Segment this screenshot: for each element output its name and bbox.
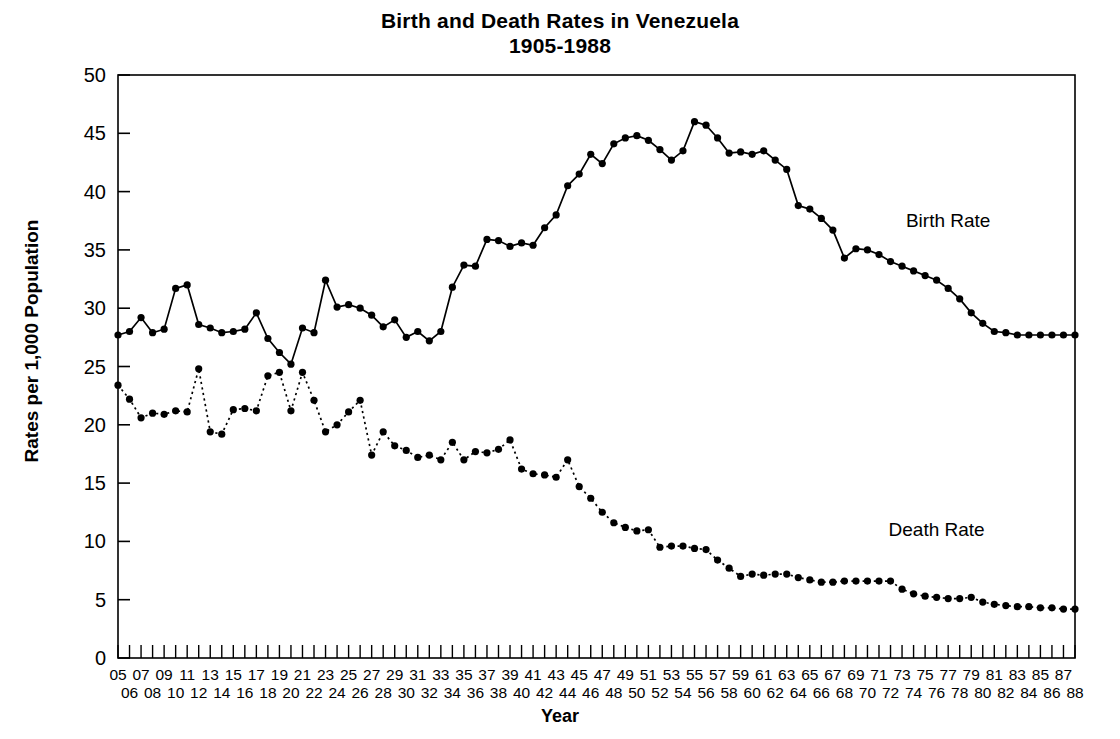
x-tick-label: 51 — [640, 666, 657, 683]
x-tick-label: 12 — [190, 684, 207, 701]
series-birth-rate — [114, 118, 1078, 368]
data-point — [795, 202, 802, 209]
series-line — [118, 369, 1075, 609]
data-point — [483, 449, 490, 456]
x-tick-label: 40 — [513, 684, 531, 701]
x-tick-label: 62 — [767, 684, 784, 701]
x-tick-label: 29 — [386, 666, 403, 683]
data-point — [114, 382, 121, 389]
x-tick-label: 19 — [271, 666, 288, 683]
x-tick-label: 44 — [559, 684, 577, 701]
data-point — [529, 470, 536, 477]
data-point — [529, 242, 536, 249]
data-point — [702, 122, 709, 129]
data-point — [380, 428, 387, 435]
data-point — [956, 295, 963, 302]
data-point — [276, 349, 283, 356]
data-point — [460, 456, 467, 463]
data-point — [322, 277, 329, 284]
x-tick-label: 86 — [1043, 684, 1060, 701]
x-tick-label: 59 — [732, 666, 749, 683]
data-point — [184, 408, 191, 415]
data-point — [656, 544, 663, 551]
data-point — [506, 243, 513, 250]
x-tick-label: 54 — [674, 684, 692, 701]
x-tick-label: 88 — [1066, 684, 1083, 701]
data-point — [1002, 602, 1009, 609]
x-tick-label: 52 — [651, 684, 668, 701]
data-point — [656, 146, 663, 153]
data-point — [357, 305, 364, 312]
data-point — [426, 337, 433, 344]
data-point — [864, 577, 871, 584]
data-point — [933, 594, 940, 601]
data-point — [610, 140, 617, 147]
data-point — [333, 303, 340, 310]
x-tick-label: 57 — [709, 666, 726, 683]
data-point — [737, 573, 744, 580]
data-point — [887, 577, 894, 584]
data-point — [184, 281, 191, 288]
x-tick-label: 81 — [986, 666, 1003, 683]
data-point — [760, 147, 767, 154]
x-tick-label: 34 — [444, 684, 462, 701]
data-point — [979, 598, 986, 605]
data-point — [403, 334, 410, 341]
x-tick-label: 84 — [1020, 684, 1038, 701]
y-tick-label: 40 — [84, 181, 106, 203]
data-point — [426, 452, 433, 459]
x-tick-label: 72 — [882, 684, 899, 701]
x-tick-label: 56 — [697, 684, 714, 701]
data-point — [668, 542, 675, 549]
data-point — [114, 331, 121, 338]
data-point — [403, 447, 410, 454]
data-point — [737, 148, 744, 155]
data-point — [195, 321, 202, 328]
x-tick-label: 46 — [582, 684, 599, 701]
y-tick-label: 10 — [84, 530, 106, 552]
data-point — [679, 147, 686, 154]
axes-group — [118, 75, 1075, 658]
x-tick-label: 55 — [686, 666, 703, 683]
y-tick-label: 30 — [84, 297, 106, 319]
x-tick-label: 79 — [963, 666, 980, 683]
data-point — [230, 406, 237, 413]
data-point — [587, 495, 594, 502]
data-point — [1025, 331, 1032, 338]
data-point — [368, 312, 375, 319]
data-point — [241, 326, 248, 333]
x-tick-label: 70 — [859, 684, 877, 701]
data-point — [437, 456, 444, 463]
data-point — [1048, 604, 1055, 611]
y-tick-label: 25 — [84, 356, 106, 378]
data-point — [852, 577, 859, 584]
data-point — [968, 594, 975, 601]
data-point — [1060, 331, 1067, 338]
x-tick-label: 77 — [940, 666, 957, 683]
x-tick-label: 35 — [455, 666, 472, 683]
x-tick-label: 22 — [305, 684, 322, 701]
data-point — [264, 335, 271, 342]
data-point — [437, 328, 444, 335]
x-tick-label: 24 — [328, 684, 346, 701]
data-point — [772, 570, 779, 577]
data-point — [622, 134, 629, 141]
x-tick-label: 41 — [524, 666, 541, 683]
data-point — [253, 309, 260, 316]
data-point — [241, 405, 248, 412]
plot-frame — [118, 75, 1075, 658]
data-point — [668, 157, 675, 164]
x-tick-label: 76 — [928, 684, 945, 701]
x-tick-label: 48 — [605, 684, 622, 701]
data-point — [541, 471, 548, 478]
data-point — [1060, 605, 1067, 612]
data-point — [414, 328, 421, 335]
data-point — [1037, 331, 1044, 338]
y-tick-label: 15 — [84, 472, 106, 494]
data-point — [587, 151, 594, 158]
data-point — [610, 519, 617, 526]
data-point — [449, 284, 456, 291]
data-point — [1014, 331, 1021, 338]
data-point — [207, 428, 214, 435]
data-point — [137, 414, 144, 421]
